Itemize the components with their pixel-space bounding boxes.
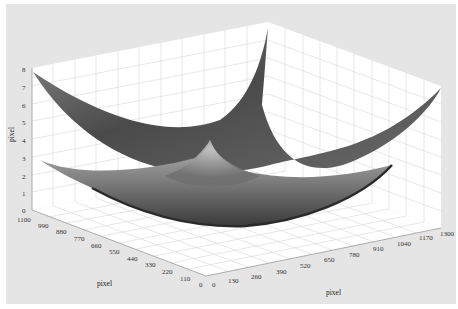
svg-text:880: 880 <box>56 228 67 236</box>
surface-plot: 8 7 6 5 4 3 2 1 0 pixel 1100 990 880 770… <box>0 0 458 309</box>
svg-text:330: 330 <box>145 261 156 269</box>
svg-text:5: 5 <box>22 119 26 127</box>
svg-text:4: 4 <box>22 137 26 145</box>
svg-text:660: 660 <box>91 242 102 250</box>
x-axis-label: pixel <box>326 288 341 297</box>
svg-text:1040: 1040 <box>397 240 412 248</box>
y-axis-label: pixel <box>97 279 112 288</box>
z-axis-label: pixel <box>7 127 16 142</box>
svg-text:770: 770 <box>74 235 85 243</box>
svg-text:0: 0 <box>22 207 26 215</box>
svg-text:650: 650 <box>324 256 335 264</box>
svg-text:3: 3 <box>22 155 26 163</box>
svg-text:0: 0 <box>199 281 203 289</box>
svg-text:550: 550 <box>109 248 120 256</box>
svg-text:2: 2 <box>22 173 26 181</box>
svg-text:910: 910 <box>373 245 384 253</box>
svg-text:1170: 1170 <box>419 234 433 242</box>
svg-text:8: 8 <box>22 66 26 74</box>
svg-text:390: 390 <box>276 268 287 276</box>
svg-text:6: 6 <box>22 102 26 110</box>
figure: 8 7 6 5 4 3 2 1 0 pixel 1100 990 880 770… <box>6 4 456 304</box>
z-axis: 8 7 6 5 4 3 2 1 0 pixel <box>7 66 26 215</box>
svg-text:260: 260 <box>251 273 262 281</box>
svg-text:1300: 1300 <box>440 230 455 238</box>
svg-text:1100: 1100 <box>17 216 31 224</box>
svg-text:440: 440 <box>127 255 138 263</box>
svg-text:130: 130 <box>228 277 239 285</box>
svg-text:1: 1 <box>22 190 26 198</box>
svg-text:990: 990 <box>38 222 49 230</box>
svg-text:7: 7 <box>22 84 26 92</box>
svg-text:520: 520 <box>300 262 311 270</box>
svg-text:110: 110 <box>180 275 191 283</box>
svg-text:780: 780 <box>349 251 360 259</box>
svg-text:220: 220 <box>162 268 173 276</box>
svg-text:0: 0 <box>212 281 216 289</box>
